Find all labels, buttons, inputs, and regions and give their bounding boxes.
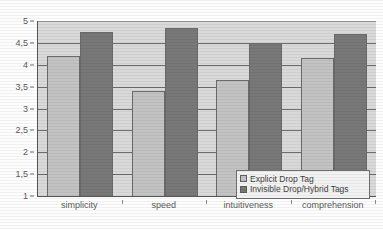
y-tick-mark <box>30 108 34 109</box>
y-tick-label: 1,5 <box>15 170 28 179</box>
x-tick-mark <box>291 200 292 204</box>
legend-label: Invisible Drop/Hybrid Tags <box>250 184 349 194</box>
legend: Explicit Drop TagInvisible Drop/Hybrid T… <box>236 170 370 199</box>
y-tick-label: 4 <box>23 60 28 69</box>
x-tick-label: simplicity <box>37 200 122 220</box>
bar <box>80 32 113 196</box>
x-tick-label: intuitiveness <box>206 200 291 220</box>
y-tick-label: 3,5 <box>15 82 28 91</box>
y-tick-mark <box>30 86 34 87</box>
bar <box>132 91 165 196</box>
y-axis: 54,543,532,521,51 <box>0 21 34 196</box>
x-axis: simplicityspeedintuitivenesscomprehensio… <box>37 200 375 220</box>
bar <box>47 56 80 196</box>
bar <box>165 28 198 196</box>
y-tick-mark <box>30 21 34 22</box>
legend-swatch-icon <box>240 186 247 193</box>
y-tick-label: 1 <box>23 192 28 201</box>
bar-group <box>123 21 208 196</box>
legend-label: Explicit Drop Tag <box>250 174 314 184</box>
y-tick-label: 2,5 <box>15 126 28 135</box>
x-tick-label: speed <box>122 200 207 220</box>
y-tick-label: 4,5 <box>15 38 28 47</box>
y-tick-mark <box>30 64 34 65</box>
y-tick-mark <box>30 152 34 153</box>
y-tick-label: 3 <box>23 104 28 113</box>
y-tick-label: 2 <box>23 148 28 157</box>
y-tick-mark <box>30 130 34 131</box>
x-tick-mark <box>375 200 376 204</box>
bar-group <box>38 21 123 196</box>
x-tick-label: comprehension <box>291 200 376 220</box>
y-tick-mark <box>30 42 34 43</box>
legend-entry: Explicit Drop Tag <box>240 174 366 184</box>
legend-swatch-icon <box>240 175 247 182</box>
y-tick-mark <box>30 196 34 197</box>
x-tick-mark <box>122 200 123 204</box>
legend-entry: Invisible Drop/Hybrid Tags <box>240 184 366 194</box>
bar-chart: 54,543,532,521,51 simplicityspeedintuiti… <box>0 0 383 229</box>
x-tick-mark <box>206 200 207 204</box>
y-tick-label: 5 <box>23 17 28 26</box>
y-tick-mark <box>30 174 34 175</box>
